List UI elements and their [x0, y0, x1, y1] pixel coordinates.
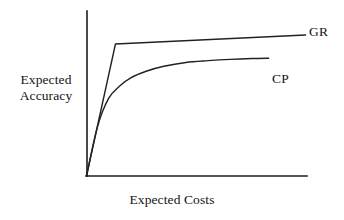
- y-axis-label: Expected Accuracy: [10, 72, 82, 103]
- chart-figure: Expected Accuracy Expected Costs GR CP: [0, 0, 344, 220]
- series-line-gr: [87, 35, 306, 176]
- series-line-cp: [87, 58, 269, 176]
- y-axis-label-line-1: Expected: [10, 72, 82, 88]
- series-label-gr: GR: [309, 25, 328, 39]
- chart-plot-area: [0, 0, 344, 220]
- x-axis-label: Expected Costs: [0, 192, 344, 208]
- y-axis-label-line-2: Accuracy: [10, 88, 82, 104]
- series-label-cp: CP: [272, 72, 289, 86]
